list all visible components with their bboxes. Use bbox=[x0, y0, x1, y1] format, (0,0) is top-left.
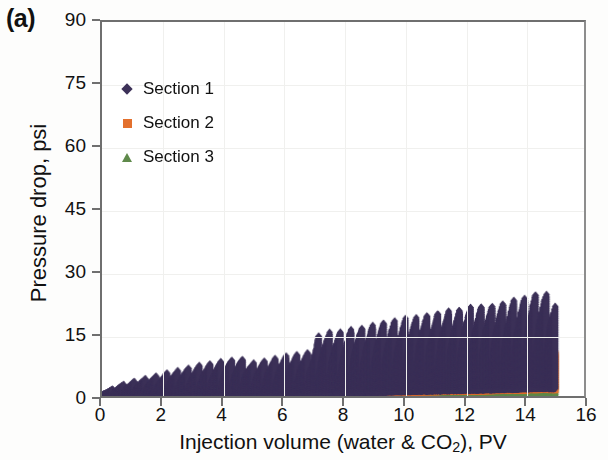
x-tick-mark bbox=[281, 398, 283, 406]
y-tick-mark bbox=[92, 208, 100, 210]
x-tick-mark bbox=[585, 398, 587, 406]
gridline-vertical bbox=[224, 22, 225, 396]
x-tick-label: 10 bbox=[379, 404, 429, 426]
square-marker-icon bbox=[120, 116, 134, 130]
x-axis-title-before: Injection volume (water & CO bbox=[179, 430, 452, 453]
legend-item-1: Section 1 bbox=[120, 72, 214, 106]
triangle-marker-icon bbox=[120, 150, 134, 164]
x-tick-label: 8 bbox=[318, 404, 368, 426]
y-tick-mark bbox=[92, 271, 100, 273]
legend-label: Section 2 bbox=[143, 113, 214, 133]
x-tick-label: 16 bbox=[561, 404, 608, 426]
y-tick-mark bbox=[92, 334, 100, 336]
x-tick-mark bbox=[342, 398, 344, 406]
gridline-vertical bbox=[527, 22, 528, 396]
panel-label: (a) bbox=[6, 4, 35, 33]
diamond-marker-icon bbox=[120, 82, 134, 96]
x-tick-label: 4 bbox=[197, 404, 247, 426]
gridline-vertical bbox=[467, 22, 468, 396]
x-tick-label: 0 bbox=[75, 404, 125, 426]
gridline-horizontal bbox=[102, 211, 584, 212]
x-axis-title-after: ), PV bbox=[460, 430, 507, 453]
gridline-vertical bbox=[406, 22, 407, 396]
x-tick-mark bbox=[99, 398, 101, 406]
y-tick-mark bbox=[92, 397, 100, 399]
figure-panel-a: (a) Pressure drop, psi Injection volume … bbox=[0, 0, 608, 460]
y-tick-mark bbox=[92, 82, 100, 84]
x-tick-mark bbox=[524, 398, 526, 406]
legend-label: Section 3 bbox=[143, 147, 214, 167]
y-tick-mark bbox=[92, 145, 100, 147]
x-axis-title: Injection volume (water & CO2), PV bbox=[100, 430, 586, 455]
x-tick-mark bbox=[160, 398, 162, 406]
gridline-horizontal bbox=[102, 337, 584, 338]
y-tick-label: 90 bbox=[40, 9, 86, 31]
y-axis-title: Pressure drop, psi bbox=[26, 48, 52, 378]
chart-legend: Section 1Section 2Section 3 bbox=[120, 72, 214, 174]
y-tick-label: 0 bbox=[40, 387, 86, 409]
gridline-vertical bbox=[284, 22, 285, 396]
x-tick-label: 6 bbox=[257, 404, 307, 426]
x-tick-mark bbox=[403, 398, 405, 406]
gridline-horizontal bbox=[102, 274, 584, 275]
x-tick-mark bbox=[464, 398, 466, 406]
legend-label: Section 1 bbox=[143, 79, 214, 99]
x-tick-label: 12 bbox=[440, 404, 490, 426]
y-tick-mark bbox=[92, 19, 100, 21]
legend-item-3: Section 3 bbox=[120, 140, 214, 174]
legend-item-2: Section 2 bbox=[120, 106, 214, 140]
x-tick-label: 2 bbox=[136, 404, 186, 426]
gridline-vertical bbox=[345, 22, 346, 396]
x-tick-label: 14 bbox=[500, 404, 550, 426]
x-axis-title-subscript: 2 bbox=[452, 439, 460, 455]
x-tick-mark bbox=[221, 398, 223, 406]
